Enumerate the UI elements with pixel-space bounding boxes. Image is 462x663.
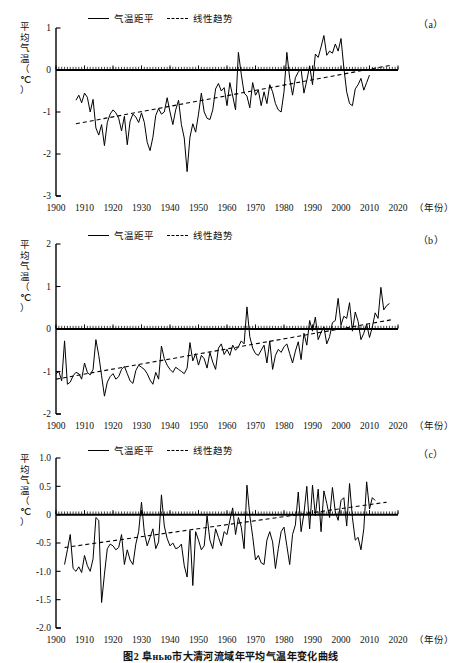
x-tick-label: 2000 [332, 635, 351, 645]
x-tick-label: 1910 [75, 203, 94, 213]
y-axis-title-char: 温 [16, 272, 34, 283]
y-axis-title-char: 气 [16, 475, 34, 486]
x-tick-label: 1940 [161, 635, 180, 645]
y-axis-title-char: 气 [16, 261, 34, 272]
x-axis-unit-label: （年份） [414, 420, 454, 431]
legend-series-line-icon [88, 235, 109, 236]
legend-series-label: 气温距平 [114, 443, 154, 457]
x-tick-label: 1950 [189, 421, 208, 431]
x-tick-label: 1980 [275, 421, 294, 431]
legend-series-line-icon [88, 18, 109, 19]
x-tick-label: 2010 [360, 203, 379, 213]
chart-panel-a: 平均气温（℃） 气温距平 线性趋势 （a） 10-1-2-31900191019… [0, 0, 462, 222]
plot-area-b: 210-1-2190019101920193019401950196019701… [0, 222, 462, 440]
panel-label-a: （a） [418, 16, 444, 31]
legend-series-label: 气温距平 [114, 228, 154, 242]
y-tick-label: 0 [46, 65, 51, 75]
legend-trend-label: 线性趋势 [193, 11, 233, 25]
x-tick-label: 1920 [104, 203, 123, 213]
data-series-line [76, 36, 370, 172]
legend-trend-label: 线性趋势 [193, 228, 233, 242]
plot-area-a: 10-1-2-319001910192019301940195019601970… [0, 0, 462, 222]
legend-series-line-icon [88, 450, 109, 451]
x-tick-label: 1930 [132, 635, 151, 645]
y-tick-label: 1 [46, 23, 51, 33]
chart-panel-b: 平均气温（℃） 气温距平 线性趋势 （b） 210-1-219001910192… [0, 222, 462, 440]
figure-caption: 图2 阜нью市大清河流域年平均气温年变化曲线 [0, 648, 462, 663]
x-tick-label: 1930 [132, 203, 151, 213]
y-tick-label: -1 [43, 107, 51, 117]
y-tick-label: -0.5 [36, 538, 51, 548]
x-tick-label: 1960 [218, 421, 237, 431]
legend-b: 气温距平 线性趋势 [88, 228, 233, 242]
x-tick-label: 1920 [104, 421, 123, 431]
x-tick-label: 2020 [389, 203, 408, 213]
data-series-line [56, 287, 389, 396]
y-axis-title-char: ℃ [16, 293, 34, 304]
x-tick-label: 2000 [332, 203, 351, 213]
y-tick-label: -2 [43, 409, 51, 419]
x-tick-label: 1990 [303, 203, 322, 213]
y-tick-label: -1.0 [36, 567, 51, 577]
y-axis-title-b: 平均气温（℃） [16, 240, 34, 314]
y-tick-label: -2.0 [36, 623, 51, 633]
x-tick-label: 2010 [360, 635, 379, 645]
y-axis-title-char: 平 [16, 240, 34, 251]
y-axis-title-c: 平均气温（℃） [16, 454, 34, 528]
x-tick-label: 1960 [218, 635, 237, 645]
y-axis-title-char: ） [16, 303, 34, 314]
x-tick-label: 1900 [47, 635, 66, 645]
x-tick-label: 1950 [189, 635, 208, 645]
y-tick-label: 0 [46, 510, 51, 520]
panel-label-b: （b） [418, 232, 445, 247]
x-tick-label: 1970 [246, 635, 265, 645]
legend-trend-line-icon [167, 18, 188, 19]
x-tick-label: 1970 [246, 421, 265, 431]
y-axis-title-char: 均 [16, 251, 34, 262]
x-tick-label: 1920 [104, 635, 123, 645]
y-axis-title-char: 温 [16, 486, 34, 497]
y-tick-label: 0.5 [39, 482, 51, 492]
x-tick-label: 1910 [75, 421, 94, 431]
x-tick-label: 1900 [47, 421, 66, 431]
y-axis-title-a: 平均气温（℃） [16, 22, 34, 96]
legend-trend-line-icon [167, 450, 188, 451]
y-axis-title-char: ） [16, 85, 34, 96]
x-tick-label: 1990 [303, 635, 322, 645]
y-axis-title-char: 均 [16, 465, 34, 476]
x-tick-label: 1950 [189, 203, 208, 213]
y-axis-title-char: （ [16, 64, 34, 75]
y-tick-label: -2 [43, 149, 51, 159]
y-axis-title-char: ） [16, 517, 34, 528]
x-tick-label: 1960 [218, 203, 237, 213]
y-axis-title-char: ℃ [16, 507, 34, 518]
x-axis-unit-label: （年份） [414, 634, 454, 645]
x-tick-label: 1940 [161, 203, 180, 213]
x-axis-unit-label: （年份） [414, 202, 454, 213]
y-tick-label: -3 [43, 191, 51, 201]
legend-c: 气温距平 线性趋势 [88, 443, 233, 457]
x-tick-label: 1980 [275, 635, 294, 645]
x-tick-label: 1910 [75, 635, 94, 645]
y-tick-label: 1 [46, 282, 51, 292]
y-axis-title-char: 均 [16, 33, 34, 44]
y-axis-title-char: 平 [16, 22, 34, 33]
trend-line [76, 65, 392, 124]
y-tick-label: -1.5 [36, 595, 51, 605]
y-axis-title-char: 温 [16, 54, 34, 65]
legend-series-label: 气温距平 [114, 11, 154, 25]
y-axis-title-char: （ [16, 282, 34, 293]
x-tick-label: 2010 [360, 421, 379, 431]
x-tick-label: 1980 [275, 203, 294, 213]
y-axis-title-char: 平 [16, 454, 34, 465]
y-tick-label: 1.0 [39, 453, 51, 463]
panel-label-c: （c） [418, 446, 444, 461]
x-tick-label: 1940 [161, 421, 180, 431]
y-tick-label: 0 [46, 324, 51, 334]
y-tick-label: -1 [43, 367, 51, 377]
x-tick-label: 2020 [389, 421, 408, 431]
y-tick-label: 2 [46, 239, 51, 249]
x-tick-label: 2020 [389, 635, 408, 645]
y-axis-title-char: （ [16, 496, 34, 507]
